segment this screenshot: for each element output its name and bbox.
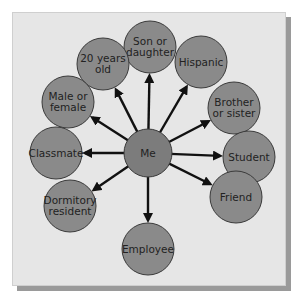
arrow-to-son-or-daughter (148, 76, 149, 131)
node-label: resident (49, 205, 92, 217)
node-label: Student (228, 151, 269, 163)
arrow-to-twenty-years-old (116, 90, 138, 133)
node-son-or-daughter: Son ordaughter (124, 21, 176, 73)
node-label: Brother (214, 96, 254, 108)
arrow-to-friend (168, 163, 210, 184)
node-label: 20 years (80, 52, 126, 64)
node-label: Dormitory (44, 194, 97, 206)
node-friend: Friend (210, 171, 262, 223)
identity-diagram: Son ordaughter20 yearsoldHispanicMale or… (0, 0, 298, 293)
node-label: Male or (49, 90, 89, 102)
arrow-to-hispanic (159, 87, 186, 134)
node-brother-or-sister: Brotheror sister (208, 82, 260, 134)
node-employee: Employee (122, 223, 174, 275)
node-dormitory-resident: Dormitoryresident (44, 180, 97, 232)
center-node-me: Me (124, 129, 172, 177)
node-label: Son or (133, 35, 168, 47)
arrow-to-brother-or-sister (167, 121, 208, 142)
node-label: or sister (213, 107, 257, 119)
node-label: female (50, 101, 86, 113)
node-label: Hispanic (179, 56, 224, 68)
node-label: old (95, 63, 111, 75)
arrow-to-male-or-female (92, 118, 129, 142)
node-label: Friend (220, 191, 252, 203)
node-male-or-female: Male orfemale (42, 76, 94, 128)
node-label: Employee (122, 243, 174, 255)
node-hispanic: Hispanic (175, 36, 227, 88)
arrow-to-student (170, 154, 220, 156)
node-label: daughter (126, 46, 175, 58)
node-label: Classmate (29, 147, 84, 159)
center-label: Me (140, 147, 156, 159)
node-classmate: Classmate (29, 127, 84, 179)
arrow-to-dormitory-resident (94, 165, 130, 189)
